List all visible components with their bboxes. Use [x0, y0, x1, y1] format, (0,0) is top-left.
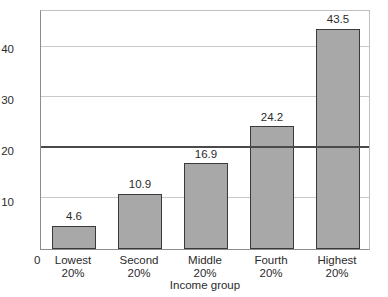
- x-axis-title: Income group: [40, 279, 370, 292]
- y-axis-tick-label-20: 20: [0, 146, 14, 158]
- bar-slot-middle: 16.9: [173, 11, 239, 249]
- bar-lowest[interactable]: [52, 226, 96, 249]
- gridline-20-emphasis: [41, 146, 369, 148]
- bar-chart: 40 30 20 10 0 4.6 10.9 16.9 24: [0, 0, 388, 297]
- bar-slot-second: 10.9: [107, 11, 173, 249]
- x-axis-tick-label-highest: Highest 20%: [304, 254, 370, 280]
- bar-value-second: 10.9: [129, 179, 151, 191]
- bar-slot-fourth: 24.2: [239, 11, 305, 249]
- x-tick-line1-highest: Highest: [318, 254, 357, 266]
- bar-highest[interactable]: [316, 29, 360, 249]
- y-axis-tick-label-40: 40: [0, 44, 14, 56]
- x-tick-line1-middle: Middle: [188, 254, 222, 266]
- y-axis-tick-label-10: 10: [0, 197, 14, 209]
- x-axis-tick-label-middle: Middle 20%: [172, 254, 238, 280]
- bar-middle[interactable]: [184, 163, 228, 249]
- bar-slot-lowest: 4.6: [41, 11, 107, 249]
- bar-value-lowest: 4.6: [66, 211, 82, 223]
- y-axis-tick-label-30: 30: [0, 95, 14, 107]
- x-axis-tick-label-lowest: Lowest 20%: [40, 254, 106, 280]
- bar-value-middle: 16.9: [195, 149, 217, 161]
- bar-slot-highest: 43.5: [305, 11, 371, 249]
- bar-value-fourth: 24.2: [261, 112, 283, 124]
- bar-second[interactable]: [118, 194, 162, 249]
- plot-area: 4.6 10.9 16.9 24.2 43.5: [40, 10, 370, 250]
- x-tick-line1-lowest: Lowest: [55, 254, 91, 266]
- bars-layer: 4.6 10.9 16.9 24.2 43.5: [41, 11, 369, 249]
- bar-value-highest: 43.5: [327, 14, 349, 26]
- x-axis-tick-label-fourth: Fourth 20%: [238, 254, 304, 280]
- x-axis-tick-label-second: Second 20%: [106, 254, 172, 280]
- x-tick-line1-second: Second: [119, 254, 158, 266]
- x-tick-line1-fourth: Fourth: [254, 254, 287, 266]
